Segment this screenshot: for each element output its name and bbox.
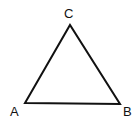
vertex-label-a: A <box>10 104 19 119</box>
triangle-abc <box>25 25 120 104</box>
vertex-label-b: B <box>123 104 132 119</box>
triangle-diagram: A B C <box>0 0 134 122</box>
vertex-label-c: C <box>64 6 73 21</box>
